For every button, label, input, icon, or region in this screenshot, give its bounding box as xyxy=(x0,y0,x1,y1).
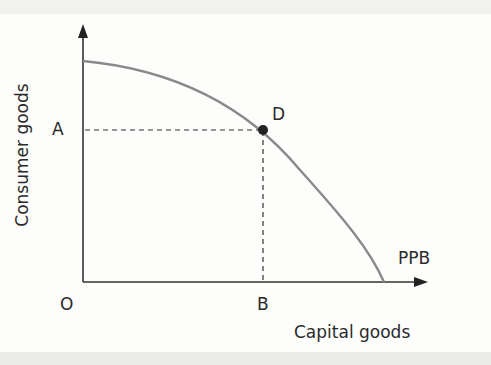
x-axis-label: Capital goods xyxy=(294,324,410,341)
label-origin: O xyxy=(60,296,73,313)
label-b: B xyxy=(257,296,269,313)
y-axis-label: Consumer goods xyxy=(12,83,32,226)
y-axis-arrow-icon xyxy=(78,24,88,38)
label-a: A xyxy=(52,121,64,138)
label-d: D xyxy=(272,106,285,123)
ppb-diagram xyxy=(0,0,491,365)
x-axis-arrow-icon xyxy=(414,277,428,287)
label-ppb: PPB xyxy=(398,250,430,267)
point-d-marker xyxy=(258,125,268,135)
ppb-curve xyxy=(83,61,384,282)
